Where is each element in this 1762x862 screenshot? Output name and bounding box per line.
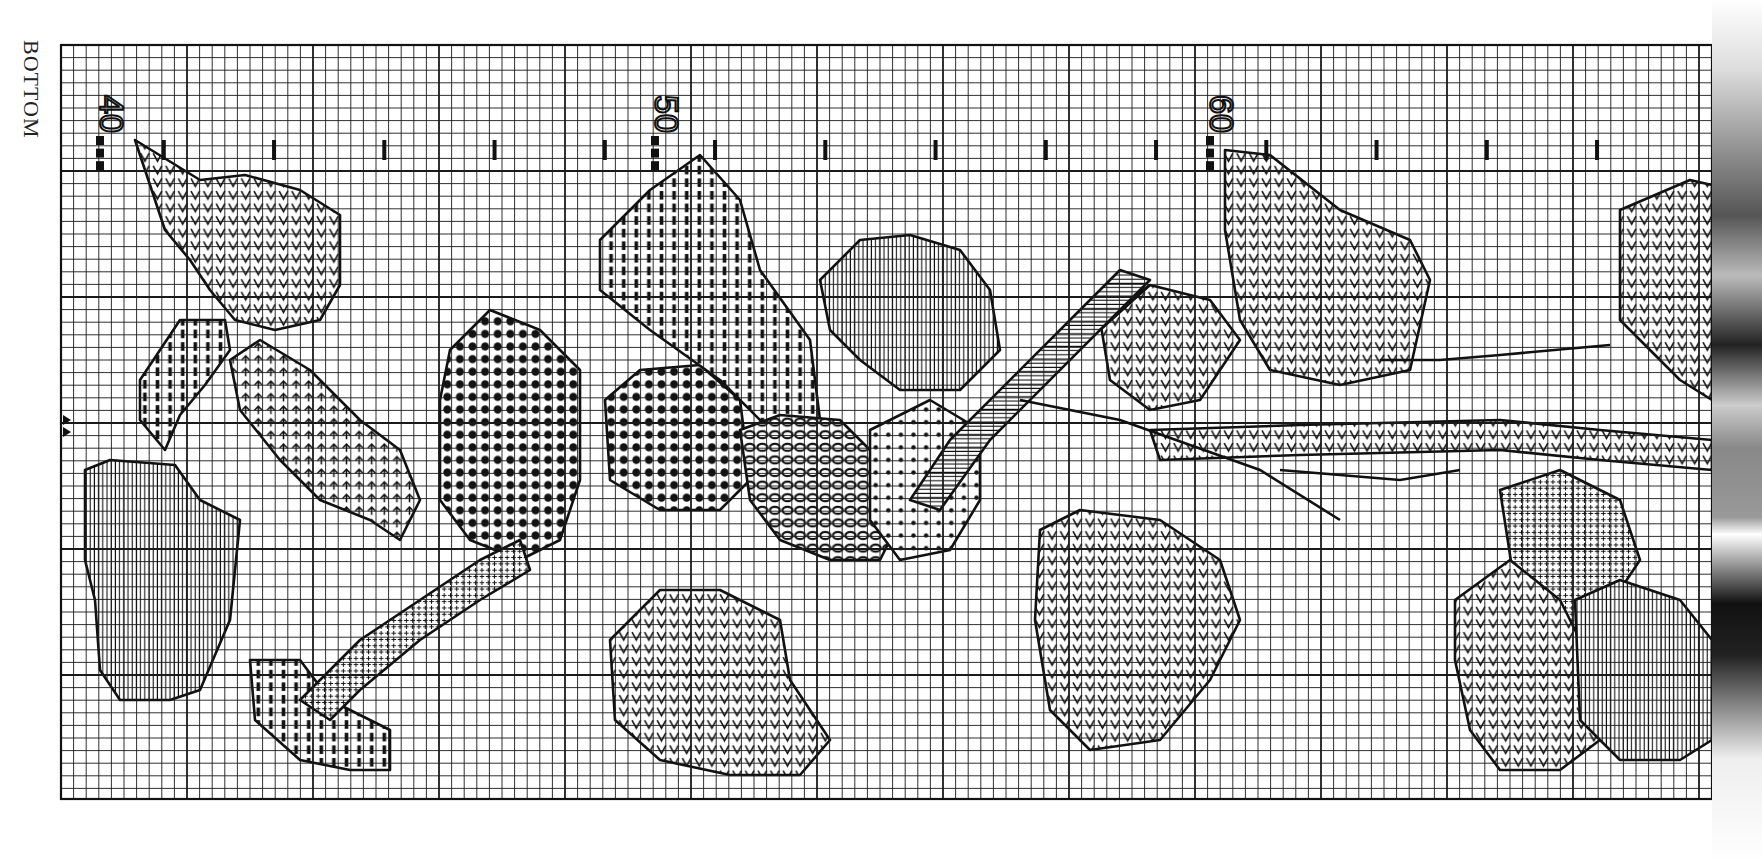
tick-mark xyxy=(382,140,386,160)
tick-mark xyxy=(713,140,717,160)
tick-square xyxy=(1206,149,1214,158)
tick-mark xyxy=(162,140,166,160)
motif-leaf-bottom-center-right xyxy=(1035,510,1240,750)
column-number: 60 xyxy=(1203,95,1241,133)
tick-mark xyxy=(823,140,827,160)
stem-outline xyxy=(1280,470,1460,480)
column-number-layer: 405060 xyxy=(93,95,1599,170)
motif-leaf-bottom-right-3 xyxy=(1575,580,1712,760)
tick-mark xyxy=(1595,140,1599,160)
tick-mark xyxy=(493,140,497,160)
tick-square xyxy=(1206,161,1214,170)
motif-leaf-top-center-right xyxy=(820,235,1000,390)
motif-leaf-top-right xyxy=(1225,150,1430,385)
motif-stem-horizontal-right xyxy=(1150,420,1712,470)
tick-mark xyxy=(1044,140,1048,160)
tick-square xyxy=(96,161,104,170)
tick-square xyxy=(651,149,659,158)
motif-leaf-bottom-center xyxy=(610,590,830,775)
tick-square xyxy=(96,149,104,158)
motif-stem-lower-cross xyxy=(300,540,530,720)
tick-mark xyxy=(1485,140,1489,160)
tick-mark xyxy=(1375,140,1379,160)
motif-stem-arrows xyxy=(230,340,420,540)
tick-square xyxy=(96,136,104,145)
center-marker-layer xyxy=(63,415,71,437)
tick-mark xyxy=(603,140,607,160)
page-edge-shadow xyxy=(1712,0,1762,862)
cross-stitch-chart: 405060 xyxy=(0,0,1762,862)
tick-square xyxy=(651,161,659,170)
tick-square xyxy=(1206,136,1214,145)
motif-leaf-left-bottom xyxy=(85,460,240,700)
column-number: 40 xyxy=(93,95,131,133)
tick-mark xyxy=(1264,140,1268,160)
tick-mark xyxy=(934,140,938,160)
tick-mark xyxy=(1154,140,1158,160)
motif-layer xyxy=(85,140,1712,775)
tick-square xyxy=(651,136,659,145)
tick-mark xyxy=(272,140,276,160)
column-number: 50 xyxy=(648,95,686,133)
